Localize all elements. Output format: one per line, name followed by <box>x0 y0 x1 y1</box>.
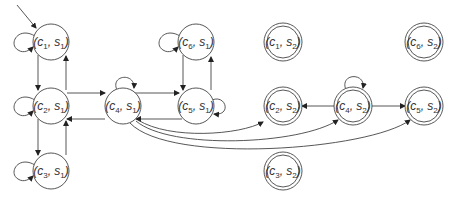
node-label: (c2, s1) <box>31 98 71 114</box>
node-label: (c3, s1) <box>31 163 71 179</box>
node-label: (c5, s2) <box>404 98 444 114</box>
node-label: (c5, s1) <box>176 98 216 114</box>
node-label: (c1, s1) <box>31 34 71 50</box>
state-diagram: (c1, s1) (c2, s1) (c3, s1) (c4, s1) (c5,… <box>0 0 450 201</box>
node-label: (c6, s2) <box>404 34 444 50</box>
node-label: (c2, s2) <box>263 98 303 114</box>
node-label: (c4, s2) <box>333 98 373 114</box>
node-label: (c3, s2) <box>263 163 303 179</box>
initial-arrow <box>17 5 36 28</box>
node-label: (c4, s1) <box>103 98 143 114</box>
node-label: (c6, s1) <box>176 34 216 50</box>
node-label: (c1, s2) <box>263 34 303 50</box>
